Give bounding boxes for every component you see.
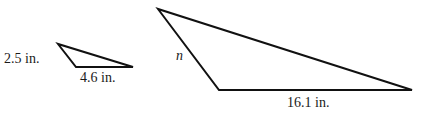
small-triangle-bottom-side-label: 4.6 in. [80, 71, 115, 85]
small-triangle-left-side-label: 2.5 in. [4, 52, 39, 66]
similar-triangles-diagram: 2.5 in. 4.6 in. n 16.1 in. [0, 0, 433, 115]
small-triangle [58, 44, 133, 67]
large-triangle-bottom-side-label: 16.1 in. [287, 96, 329, 110]
large-triangle [158, 9, 412, 90]
large-triangle-left-side-label: n [176, 49, 183, 63]
triangles-drawing [0, 0, 433, 115]
